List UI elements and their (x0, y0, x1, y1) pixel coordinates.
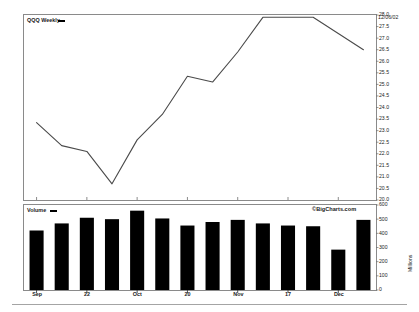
x-tick-label: 20 (185, 292, 191, 297)
price-y-tick-label: 25.5 (379, 70, 389, 75)
bigcharts-watermark: ©BigCharts.com (312, 207, 356, 213)
price-plot-frame (24, 15, 377, 201)
volume-y-tick-label: 200 (379, 259, 388, 264)
x-tick-label: Sep (32, 292, 42, 297)
price-y-tick-label: 21.0 (379, 174, 389, 179)
volume-bar (105, 219, 119, 290)
volume-bar (256, 223, 270, 290)
x-tick-label: 22 (84, 292, 90, 297)
x-tick-label: Oct (133, 292, 142, 297)
price-y-tick-label: 27.5 (379, 24, 389, 29)
volume-bar (80, 218, 94, 290)
chart-canvas (0, 0, 419, 312)
price-y-tick-label: 24.5 (379, 93, 389, 98)
volume-bar (331, 250, 345, 290)
x-tick-label: Nov (233, 292, 243, 297)
volume-legend-swatch (50, 210, 57, 212)
volume-bar (281, 226, 295, 290)
volume-y-tick-label: 300 (379, 245, 388, 250)
volume-bar (356, 220, 370, 290)
volume-series-label: Volume (27, 208, 46, 213)
price-legend-swatch (58, 20, 65, 22)
price-y-tick-label: 23.5 (379, 116, 389, 121)
volume-y-tick-label: 500 (379, 217, 388, 222)
volume-y-tick-label: 600 (379, 202, 388, 207)
price-y-tick-label: 23.0 (379, 128, 389, 133)
x-tick-label: 17 (285, 292, 291, 297)
volume-y-tick-label: 400 (379, 231, 388, 236)
price-y-tick-label: 27.0 (379, 36, 389, 41)
volume-bar (30, 231, 44, 291)
price-y-tick-label: 22.0 (379, 151, 389, 156)
price-y-tick-label: 28.0 (379, 12, 389, 17)
price-y-tick-label: 20.5 (379, 186, 389, 191)
volume-plot-frame (24, 205, 377, 291)
price-y-tick-label: 26.5 (379, 47, 389, 52)
volume-axis-title: Millions (408, 255, 413, 272)
price-y-tick-label: 25.0 (379, 82, 389, 87)
volume-bar (206, 222, 220, 290)
volume-y-tick-label: 0 (379, 287, 382, 292)
volume-bar (231, 220, 245, 290)
volume-y-tick-label: 100 (379, 273, 388, 278)
price-y-tick-label: 21.5 (379, 163, 389, 168)
volume-bar (180, 226, 194, 290)
volume-bar (130, 211, 144, 290)
volume-bar (155, 218, 169, 290)
bigcharts-stock-chart: QQQ Weekly 12/06/02 Volume ©BigCharts.co… (0, 0, 419, 312)
volume-bar (55, 223, 69, 290)
volume-bar (306, 226, 320, 290)
price-series-label: QQQ Weekly (27, 18, 60, 23)
price-y-tick-label: 24.0 (379, 105, 389, 110)
price-y-tick-label: 26.0 (379, 59, 389, 64)
price-y-tick-label: 22.5 (379, 140, 389, 145)
x-tick-label: Dec (334, 292, 344, 297)
